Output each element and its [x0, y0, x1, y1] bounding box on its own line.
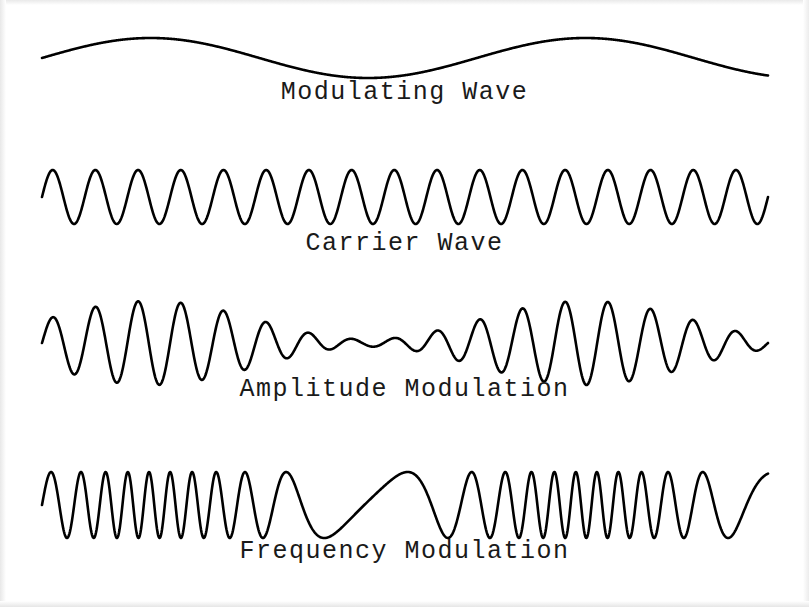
modulation-diagram: Modulating Wave Carrier Wave Amplitude M… — [0, 0, 809, 607]
caption-modulating-wave: Modulating Wave — [0, 78, 809, 107]
carrier-wave-path — [42, 170, 768, 224]
modulating-wave-path — [42, 38, 768, 78]
caption-frequency-modulation: Frequency Modulation — [0, 537, 809, 566]
caption-carrier-wave: Carrier Wave — [0, 229, 809, 258]
frequency-modulation-wave-path — [42, 472, 768, 538]
amplitude-modulation-wave-path — [42, 301, 768, 385]
caption-amplitude-modulation: Amplitude Modulation — [0, 375, 809, 404]
